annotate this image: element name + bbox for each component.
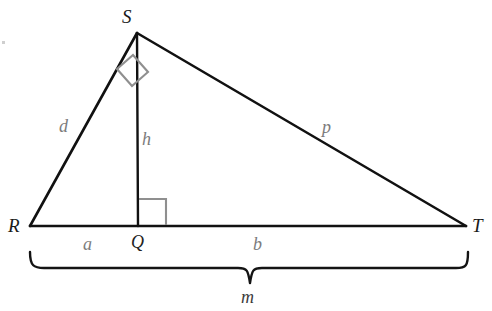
segment-label-a: a — [83, 235, 92, 253]
segment-label-d: d — [59, 117, 68, 135]
brace-under-base — [30, 252, 468, 283]
segment-label-h: h — [142, 130, 151, 148]
right-angle-at-q-marker — [139, 199, 166, 225]
segment-label-m: m — [241, 288, 254, 306]
vertex-label-t: T — [472, 216, 483, 235]
scan-artifact-speck — [2, 41, 5, 44]
geometry-diagram: S R T Q d h p a b m — [0, 0, 492, 311]
segment-st-line — [137, 33, 466, 226]
segment-rs-line — [30, 33, 137, 226]
segment-label-p: p — [322, 118, 331, 136]
vertex-label-r: R — [8, 216, 20, 235]
vertex-label-q: Q — [131, 233, 144, 251]
geometry-canvas — [0, 0, 492, 311]
segment-label-b: b — [253, 235, 262, 253]
vertex-label-s: S — [122, 7, 132, 26]
